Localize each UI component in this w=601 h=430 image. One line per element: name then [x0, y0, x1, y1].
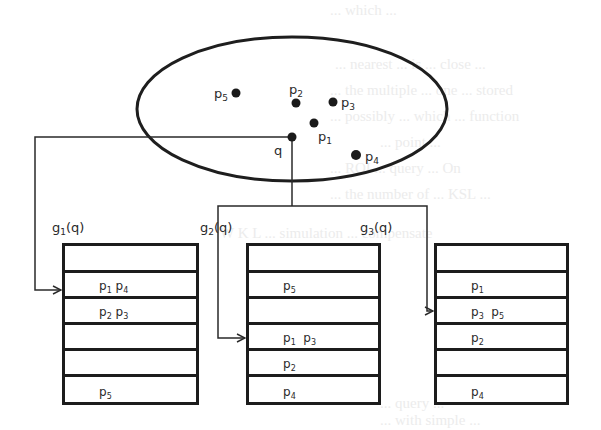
svg-text:p4: p4 [365, 149, 379, 166]
point-p1-dot [310, 119, 319, 128]
hash-table-g3: p1 p3 p5 p2 p4 [434, 243, 569, 405]
hash-table-g2: p5 p1 p3 p2 p4 [246, 243, 381, 405]
point-p2: p2 [289, 82, 303, 108]
table-row: p2 [249, 350, 378, 377]
table-row: p2 [437, 324, 566, 351]
g2-label: g2(q) [200, 220, 232, 237]
table-row [249, 246, 378, 273]
query-point-dot [288, 133, 297, 142]
table-row [437, 350, 566, 377]
table-row: p5 [65, 376, 196, 402]
table-row: p1 p4 [65, 272, 196, 299]
table-row: p3 p5 [437, 298, 566, 325]
point-p4-dot [351, 150, 361, 160]
svg-text:p3: p3 [341, 95, 355, 112]
table-row [65, 246, 196, 273]
point-p4: p4 [351, 149, 379, 166]
query-point-label: q [274, 143, 282, 158]
table-row [65, 350, 196, 377]
svg-text:p5: p5 [214, 86, 228, 103]
point-p2-dot [292, 99, 301, 108]
table-row: p2 p3 [65, 298, 196, 325]
table-row [437, 246, 566, 273]
svg-text:p2: p2 [289, 82, 303, 99]
point-p3: p3 [329, 95, 356, 112]
table-row: p4 [249, 376, 378, 402]
table-row [65, 324, 196, 351]
table-row [249, 298, 378, 325]
svg-text:p1: p1 [318, 129, 332, 146]
g1-label: g1(q) [52, 220, 84, 237]
table-row: p1 [437, 272, 566, 299]
point-p5: p5 [214, 86, 241, 103]
point-p1: p1 [310, 119, 333, 147]
table-row: p1 p3 [249, 324, 378, 351]
point-p3-dot [329, 98, 338, 107]
table-row: p4 [437, 376, 566, 402]
g3-label: g3(q) [360, 220, 392, 237]
point-p5-dot [232, 89, 241, 98]
table-row: p5 [249, 272, 378, 299]
hash-table-g1: p1 p4 p2 p3 p5 [62, 243, 199, 405]
